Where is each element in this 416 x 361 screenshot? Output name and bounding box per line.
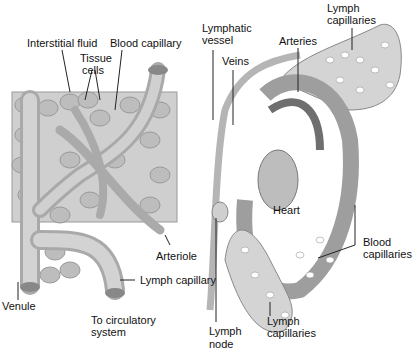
- label-to-circulatory-2: system: [91, 326, 126, 338]
- label-lymph-capillary: Lymph capillary: [140, 274, 216, 286]
- label-tissue-cells-1: Tissue: [80, 52, 112, 64]
- label-veins: Veins: [222, 55, 249, 67]
- label-blood-capillary: Blood capillary: [110, 37, 182, 49]
- label-lymph-capillaries-bottom-1: Lymph: [267, 315, 300, 327]
- label-venule: Venule: [2, 300, 36, 312]
- label-lymph-node-1: Lymph: [209, 325, 242, 337]
- label-lymphatic-vessel-1: Lymphatic: [202, 22, 252, 34]
- label-arteriole: Arteriole: [156, 250, 197, 262]
- vessel-opening: [148, 65, 168, 75]
- label-heart: Heart: [273, 204, 300, 216]
- label-arteries: Arteries: [279, 35, 317, 47]
- label-to-circulatory-1: To circulatory: [91, 314, 156, 326]
- label-lymph-capillaries-top-1: Lymph: [327, 2, 360, 14]
- label-lymph-node-2: node: [209, 338, 233, 350]
- label-blood-capillaries-1: Blood: [363, 236, 391, 248]
- label-lymph-capillaries-top-2: capillaries: [327, 14, 376, 26]
- label-lymphatic-vessel-2: vessel: [202, 34, 233, 46]
- label-interstitial-fluid: Interstitial fluid: [27, 37, 97, 49]
- label-blood-capillaries-2: capillaries: [363, 248, 412, 260]
- label-tissue-cells-2: cells: [82, 64, 104, 76]
- label-lymph-capillaries-bottom-2: capillaries: [267, 327, 316, 339]
- diagram-artwork: [0, 0, 416, 361]
